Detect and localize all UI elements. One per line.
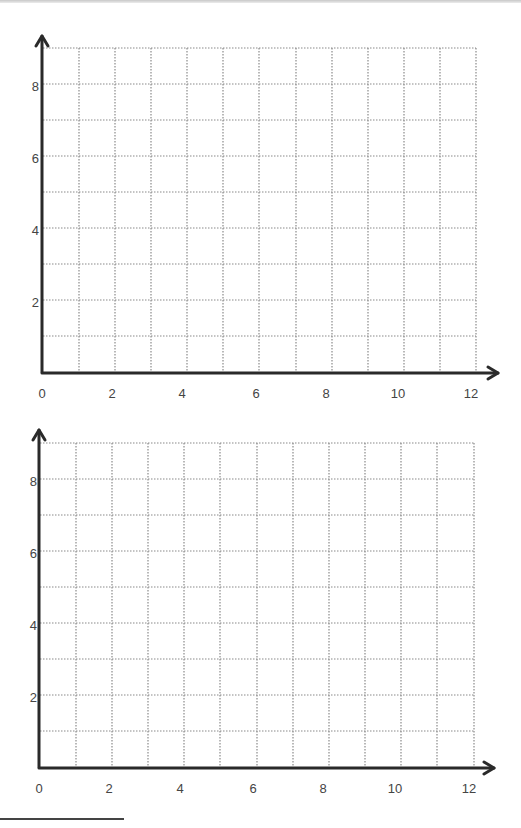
svg-text:6: 6 — [30, 546, 37, 561]
graph-grid-2: 0 2 4 6 8 10 12 2 4 6 8 — [0, 0, 521, 828]
svg-text:10: 10 — [388, 781, 402, 796]
axes — [33, 430, 494, 774]
svg-text:6: 6 — [249, 781, 256, 796]
svg-text:8: 8 — [30, 474, 37, 489]
svg-text:0: 0 — [35, 781, 42, 796]
svg-text:4: 4 — [30, 618, 37, 633]
footnote-separator — [0, 818, 124, 820]
svg-text:2: 2 — [30, 690, 37, 705]
svg-text:4: 4 — [176, 781, 183, 796]
svg-text:12: 12 — [462, 781, 476, 796]
y-tick-labels: 2 4 6 8 — [30, 474, 37, 705]
x-tick-labels: 0 2 4 6 8 10 12 — [35, 781, 476, 796]
svg-text:8: 8 — [319, 781, 326, 796]
svg-text:2: 2 — [105, 781, 112, 796]
grid-lines — [40, 443, 474, 767]
